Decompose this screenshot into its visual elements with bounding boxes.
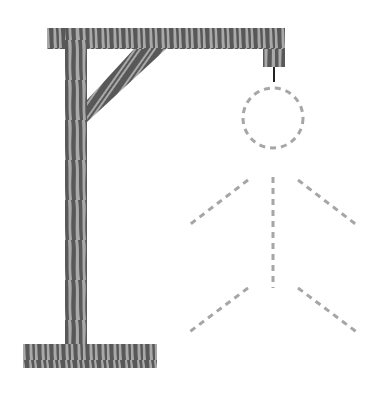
hangman-drawing xyxy=(0,0,381,393)
figure-left-arm xyxy=(188,180,248,226)
figure-left-leg xyxy=(188,288,248,333)
figure-right-arm xyxy=(298,180,358,226)
gallows-brace xyxy=(87,49,166,122)
gallows-base xyxy=(23,344,157,368)
hangman-figure xyxy=(188,88,358,333)
hangman-stage xyxy=(0,0,381,393)
figure-head xyxy=(243,88,303,148)
gallows-post xyxy=(65,28,87,346)
gallows xyxy=(23,28,285,368)
figure-right-leg xyxy=(298,288,358,333)
gallows-hanger-block xyxy=(263,49,285,67)
